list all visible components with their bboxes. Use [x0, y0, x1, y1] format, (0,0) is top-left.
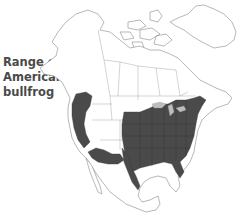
- greenland: [170, 5, 236, 48]
- arctic-islands: [120, 10, 172, 48]
- north-america-map: [0, 0, 246, 223]
